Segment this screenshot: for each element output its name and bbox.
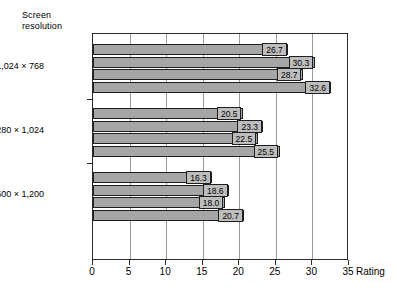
- x-axis-tick: [165, 260, 166, 265]
- bar-row: 25.5: [93, 146, 349, 157]
- x-axis-tick-label: 25: [260, 266, 290, 277]
- bar-value-label: 18.6: [203, 184, 228, 197]
- bar-value-label: 28.7: [277, 68, 302, 81]
- category-label: 1,600 × 1,200: [0, 189, 44, 199]
- bar-row: 23.3: [93, 121, 349, 132]
- x-axis-tick: [275, 260, 276, 265]
- bar: [93, 146, 280, 157]
- category-label: 1,024 × 768: [0, 61, 44, 71]
- bar-value-label: 18.0: [199, 196, 224, 209]
- bar-row: 28.7: [93, 69, 349, 80]
- y-axis-title: Screen resolution: [22, 10, 62, 32]
- x-axis-tick: [92, 260, 93, 265]
- bar-row: 18.6: [93, 185, 349, 196]
- bar-value-label: 23.3: [237, 120, 262, 133]
- x-axis-tick: [238, 260, 239, 265]
- bar-value-label: 22.5: [232, 132, 257, 145]
- x-axis-tick-label: 30: [296, 266, 326, 277]
- bar: [93, 57, 315, 68]
- x-axis-tick-label: 0: [77, 266, 107, 277]
- bar-value-label: 26.7: [262, 43, 287, 56]
- bar: [93, 82, 331, 93]
- bar-row: 22.5: [93, 133, 349, 144]
- x-axis-title: Rating: [356, 266, 385, 277]
- bars-layer: 26.730.328.732.620.523.322.525.516.318.6…: [93, 34, 347, 259]
- bar-value-label: 16.3: [186, 171, 211, 184]
- bar-row: 18.0: [93, 197, 349, 208]
- bar-row: 30.3: [93, 57, 349, 68]
- x-axis-tick-label: 5: [114, 266, 144, 277]
- bar-row: 26.7: [93, 44, 349, 55]
- bar-value-label: 25.5: [254, 145, 279, 158]
- x-axis-tick-label: 15: [187, 266, 217, 277]
- category-tick: [87, 163, 92, 164]
- category-tick: [87, 99, 92, 100]
- bar-row: 20.5: [93, 108, 349, 119]
- x-axis-tick: [129, 260, 130, 265]
- plot-area: 26.730.328.732.620.523.322.525.516.318.6…: [92, 33, 348, 260]
- x-axis-tick-label: 20: [223, 266, 253, 277]
- bar: [93, 44, 288, 55]
- bar-row: 16.3: [93, 172, 349, 183]
- bar-row: 20.7: [93, 210, 349, 221]
- x-axis-tick: [202, 260, 203, 265]
- bar-value-label: 30.3: [289, 56, 314, 69]
- bar-value-label: 20.5: [217, 107, 242, 120]
- bar-chart: Screen resolution 26.730.328.732.620.523…: [0, 0, 396, 294]
- bar-value-label: 20.7: [218, 209, 243, 222]
- bar-value-label: 32.6: [305, 81, 330, 94]
- category-label: 1,280 × 1,024: [0, 125, 44, 135]
- x-axis-tick: [311, 260, 312, 265]
- bar-row: 32.6: [93, 82, 349, 93]
- bar: [93, 69, 303, 80]
- x-axis-tick: [348, 260, 349, 265]
- x-axis-tick-label: 10: [150, 266, 180, 277]
